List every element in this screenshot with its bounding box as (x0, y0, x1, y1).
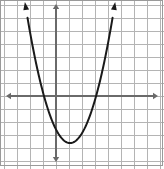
graph-canvas (0, 0, 164, 169)
parabola-graph-figure (0, 0, 164, 169)
